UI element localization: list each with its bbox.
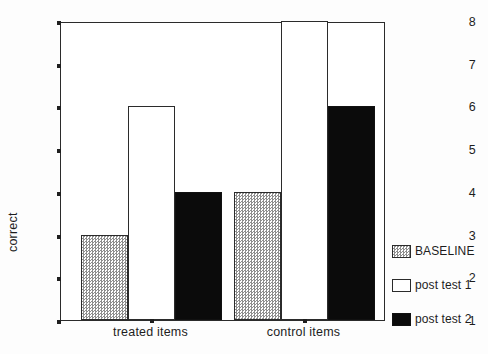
bar-post-test-1-control — [281, 21, 328, 320]
y-axis-tick — [57, 277, 61, 281]
y-axis-tick — [57, 106, 61, 110]
y-axis-tick — [57, 64, 61, 68]
bar-post-test-2-control — [328, 106, 375, 320]
legend-swatch-icon — [392, 245, 411, 258]
bar-post-test-2-treated — [175, 192, 222, 320]
y-axis-tick-label: 5 — [450, 143, 476, 157]
y-axis-title: correct — [6, 212, 20, 252]
chart-figure: correct BASELINEpost test 1post test 2 1… — [0, 0, 488, 354]
x-axis-tick-label: control items — [267, 325, 340, 339]
y-axis-tick-label: 2 — [450, 271, 476, 285]
legend-swatch-icon — [392, 313, 411, 326]
bar-baseline-control — [234, 192, 281, 320]
legend-item: BASELINE — [392, 243, 486, 259]
plot-frame — [60, 22, 385, 321]
y-axis-tick — [57, 21, 61, 25]
chart-legend: BASELINEpost test 1post test 2 — [392, 243, 486, 345]
y-axis-tick-label: 6 — [450, 100, 476, 114]
legend-label: BASELINE — [415, 244, 475, 258]
y-axis-tick-label: 7 — [450, 58, 476, 72]
y-axis-tick-label: 4 — [450, 186, 476, 200]
y-axis-tick-label: 8 — [450, 15, 476, 29]
plot-area — [61, 23, 384, 320]
y-axis-tick-label: 3 — [450, 229, 476, 243]
bar-baseline-treated — [81, 235, 128, 320]
x-axis-tick — [150, 319, 154, 323]
x-axis-tick-label: treated items — [113, 325, 188, 339]
y-axis-tick-label: 1 — [450, 314, 476, 328]
y-axis-tick — [57, 192, 61, 196]
y-axis-tick — [57, 235, 61, 239]
y-axis-tick — [57, 149, 61, 153]
x-axis-tick — [303, 319, 307, 323]
legend-swatch-icon — [392, 279, 411, 292]
y-axis-tick — [57, 320, 61, 324]
bar-post-test-1-treated — [128, 106, 175, 320]
